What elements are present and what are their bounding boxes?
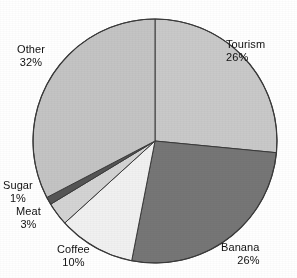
- pie-chart: Tourism 26% Banana 26% Coffee 10% Meat 3…: [0, 0, 297, 278]
- slice-label-coffee-value: 10%: [57, 256, 90, 269]
- slice-label-other-name: Other: [17, 43, 45, 56]
- slice-label-banana: Banana 26%: [221, 241, 260, 267]
- slice-label-tourism-value: 26%: [226, 51, 265, 64]
- slice-label-coffee-name: Coffee: [57, 243, 90, 256]
- slice-label-banana-name: Banana: [221, 241, 260, 254]
- slice-label-coffee: Coffee 10%: [57, 243, 90, 269]
- slice-label-sugar-value: 1%: [3, 192, 33, 205]
- slice-label-other: Other 32%: [17, 43, 45, 69]
- slice-label-sugar: Sugar 1%: [3, 179, 33, 205]
- slice-label-meat-name: Meat: [16, 205, 41, 218]
- slice-label-meat: Meat 3%: [16, 205, 41, 231]
- slice-label-banana-value: 26%: [221, 254, 260, 267]
- slice-label-tourism: Tourism 26%: [226, 38, 265, 64]
- slice-label-sugar-name: Sugar: [3, 179, 33, 192]
- slice-label-tourism-name: Tourism: [226, 38, 265, 51]
- slice-label-meat-value: 3%: [16, 218, 41, 231]
- slice-label-other-value: 32%: [17, 56, 45, 69]
